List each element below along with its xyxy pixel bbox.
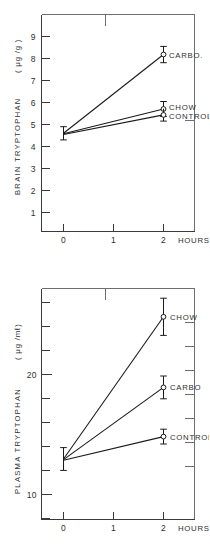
series-label-control: CONTROL xyxy=(169,112,209,121)
y-tick-label: 7 xyxy=(31,76,36,86)
brain-tryptophan-svg: 9 8 7 6 5 4 3 2 1 0 1 2 xyxy=(0,0,209,272)
plot-frame xyxy=(42,289,195,520)
series-label-control: CONTROL xyxy=(170,433,209,442)
y-tick-label: 4 xyxy=(31,142,36,152)
y-tick-label: 2 xyxy=(31,186,36,196)
y-tick-label: 1 xyxy=(31,208,36,218)
data-point-marker xyxy=(161,52,166,57)
series-carbo: CARBO xyxy=(64,376,202,460)
y-tick-label: 8 xyxy=(31,54,36,64)
two-panel-figure: 9 8 7 6 5 4 3 2 1 0 1 2 xyxy=(0,0,209,560)
y-tick-label: 20 xyxy=(27,370,37,380)
y-tick-label: 6 xyxy=(31,98,36,108)
data-point-marker xyxy=(161,385,166,390)
x-axis: 0 1 2 HOURS xyxy=(42,512,210,534)
series-label-chow: CHOW xyxy=(170,313,198,322)
y-axis-tick-labels: 20 10 xyxy=(27,370,37,500)
y-tick-label: 3 xyxy=(31,164,36,174)
y-axis-ticks xyxy=(42,37,50,213)
series-control: CONTROL xyxy=(64,109,210,135)
series-label-carbo: CARBO. xyxy=(169,51,203,60)
x-tick-label: 0 xyxy=(61,523,66,533)
series-carbo: CARBO. xyxy=(60,46,203,139)
y-axis-units: ( μg /mℓ) xyxy=(13,323,22,360)
x-tick-label: 2 xyxy=(161,523,166,533)
y-axis-title: PLASMA TRYPTOPHAN xyxy=(13,388,22,494)
y-tick-label: 10 xyxy=(27,490,37,500)
y-tick-label: 5 xyxy=(31,120,36,130)
y-axis: 9 8 7 6 5 4 3 2 1 xyxy=(31,15,50,232)
plot-frame xyxy=(42,15,195,232)
brain-tryptophan-panel: 9 8 7 6 5 4 3 2 1 0 1 2 xyxy=(0,0,209,272)
y-axis-ticks xyxy=(42,303,52,519)
series-label-carbo: CARBO xyxy=(170,383,201,392)
x-tick-label: 1 xyxy=(111,235,116,245)
y-axis-units: ( μg /g ) xyxy=(13,39,22,73)
y-axis-tick-labels: 9 8 7 6 5 4 3 2 1 xyxy=(31,32,36,218)
y-axis-title-group: BRAIN TRYPTOPHAN ( μg /g ) xyxy=(13,39,22,195)
y-axis: 20 10 xyxy=(27,289,52,520)
x-axis: 0 1 2 HOURS xyxy=(42,224,210,246)
y-axis-title-group: PLASMA TRYPTOPHAN ( μg /mℓ) xyxy=(13,323,22,494)
data-point-marker xyxy=(161,314,166,319)
data-point-marker xyxy=(161,113,166,118)
x-axis-title: HOURS xyxy=(178,236,209,245)
series-control: CONTROL xyxy=(64,429,210,460)
data-point-marker xyxy=(161,434,166,439)
x-tick-label: 2 xyxy=(161,235,166,245)
x-tick-label: 0 xyxy=(61,235,66,245)
plasma-tryptophan-panel: 20 10 0 1 2 HOURS PLASMA TRYPTOPHAN ( μg… xyxy=(0,282,209,560)
plasma-tryptophan-svg: 20 10 0 1 2 HOURS PLASMA TRYPTOPHAN ( μg… xyxy=(0,282,209,560)
x-tick-label: 1 xyxy=(111,523,116,533)
y-tick-label: 9 xyxy=(31,32,36,42)
x-axis-title: HOURS xyxy=(178,524,209,533)
series-label-chow: CHOW xyxy=(169,103,197,112)
y-axis-title: BRAIN TRYPTOPHAN xyxy=(13,97,22,195)
